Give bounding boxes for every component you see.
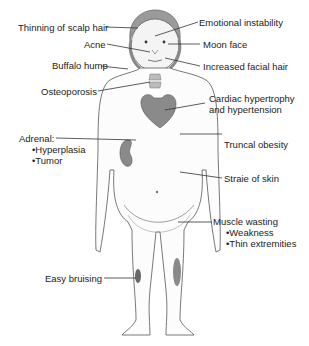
label-thin-extremities: Thin extremities — [226, 238, 296, 249]
label-cardiac-hypertrophy: Cardiac hypertrophy — [209, 93, 295, 104]
label-osteoporosis: Osteoporosis — [41, 86, 97, 97]
label-moon-face: Moon face — [203, 39, 247, 50]
label-emotional-instability: Emotional instability — [199, 17, 283, 28]
label-hypertension: and hypertension — [209, 104, 282, 115]
label-increased-facial-hair: Increased facial hair — [203, 61, 288, 72]
label-muscle-wasting: Muscle wasting — [213, 216, 278, 227]
label-striae-of-skin: Straie of skin — [224, 173, 279, 184]
label-hyperplasia: Hyperplasia — [32, 144, 86, 155]
label-easy-bruising: Easy bruising — [45, 273, 102, 284]
label-tumor: Tumor — [32, 155, 62, 166]
label-acne: Acne — [84, 39, 106, 50]
label-weakness: Weakness — [226, 227, 274, 238]
label-truncal-obesity: Truncal obesity — [224, 139, 288, 150]
label-adrenal: Adrenal: — [19, 133, 54, 144]
thigh-muscle — [173, 258, 181, 286]
label-thinning-scalp-hair: Thinning of scalp hair — [18, 22, 108, 33]
head — [131, 19, 179, 71]
cushing-syndrome-diagram: Thinning of scalp hair Acne Buffalo hump… — [0, 0, 309, 346]
label-buffalo-hump: Buffalo hump — [52, 60, 108, 71]
bruise — [135, 269, 141, 283]
